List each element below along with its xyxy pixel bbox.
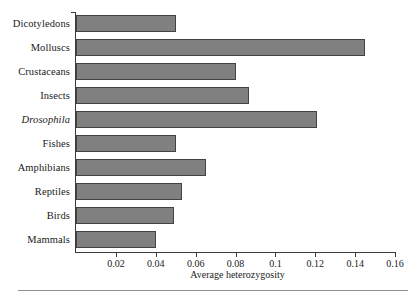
category-label: Drosophila — [0, 114, 70, 126]
category-label: Molluscs — [0, 42, 70, 54]
category-label: Dicotyledons — [0, 18, 70, 30]
x-tick-mark — [196, 252, 197, 257]
x-tick-mark — [156, 252, 157, 257]
bottom-divider — [18, 290, 408, 291]
category-label: Insects — [0, 90, 70, 102]
bar-row: Birds — [0, 204, 417, 228]
x-tick-mark — [275, 252, 276, 257]
bar — [76, 39, 365, 56]
x-axis-title: Average heterozygosity — [0, 269, 417, 281]
category-label: Fishes — [0, 138, 70, 150]
x-tick-mark — [116, 252, 117, 257]
bar-row: Molluscs — [0, 36, 417, 60]
bar — [76, 63, 236, 80]
category-label: Birds — [0, 210, 70, 222]
x-tick-mark — [355, 252, 356, 257]
bar — [76, 159, 206, 176]
bar — [76, 87, 249, 104]
bar-row: Crustaceans — [0, 60, 417, 84]
bar-rows: DicotyledonsMolluscsCrustaceansInsectsDr… — [0, 12, 417, 252]
bar — [76, 207, 174, 224]
bar-row: Amphibians — [0, 156, 417, 180]
bar — [76, 15, 176, 32]
x-tick-mark — [236, 252, 237, 257]
bar-row: Reptiles — [0, 180, 417, 204]
bar — [76, 111, 317, 128]
x-tick-mark — [395, 252, 396, 257]
bar — [76, 183, 182, 200]
bar — [76, 135, 176, 152]
bar-row: Drosophila — [0, 108, 417, 132]
bar-row: Mammals — [0, 228, 417, 252]
category-label: Reptiles — [0, 186, 70, 198]
category-label: Amphibians — [0, 162, 70, 174]
bar — [76, 231, 156, 248]
bar-row: Fishes — [0, 132, 417, 156]
category-label: Mammals — [0, 234, 70, 246]
bar-row: Dicotyledons — [0, 12, 417, 36]
bar-chart-figure: DicotyledonsMolluscsCrustaceansInsectsDr… — [0, 0, 417, 297]
category-label: Crustaceans — [0, 66, 70, 78]
x-tick-mark — [315, 252, 316, 257]
bar-row: Insects — [0, 84, 417, 108]
